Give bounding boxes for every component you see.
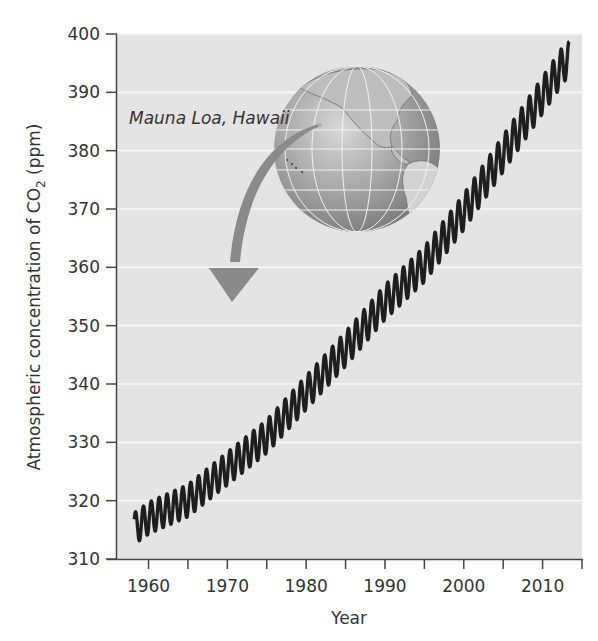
y-tick-label: 380 bbox=[68, 141, 100, 161]
x-tick-label: 1960 bbox=[127, 576, 170, 596]
y-tick-label: 340 bbox=[68, 374, 100, 394]
x-tick-label: 1990 bbox=[363, 576, 406, 596]
y-tick-label: 370 bbox=[68, 199, 100, 219]
y-tick-label: 320 bbox=[68, 491, 100, 511]
x-tick-label: 2000 bbox=[442, 576, 485, 596]
x-axis-ticks: 196019701980199020002010 bbox=[127, 559, 582, 596]
y-tick-label: 360 bbox=[68, 257, 100, 277]
y-axis-ticks: 310320330340350360370380390400 bbox=[68, 24, 117, 569]
y-axis-label: Atmospheric concentration of CO2 (ppm) bbox=[24, 124, 48, 471]
x-tick-label: 1980 bbox=[285, 576, 328, 596]
y-tick-label: 400 bbox=[68, 24, 100, 44]
y-tick-label: 390 bbox=[68, 82, 100, 102]
x-axis-label: Year bbox=[330, 608, 367, 628]
co2-chart: Mauna Loa, Hawaii 3103203303403503603703… bbox=[0, 0, 598, 641]
y-tick-label: 350 bbox=[68, 316, 100, 336]
location-annotation: Mauna Loa, Hawaii bbox=[129, 108, 290, 128]
y-tick-label: 330 bbox=[68, 432, 100, 452]
x-tick-label: 2010 bbox=[521, 576, 564, 596]
y-tick-label: 310 bbox=[68, 549, 100, 569]
x-tick-label: 1970 bbox=[206, 576, 249, 596]
